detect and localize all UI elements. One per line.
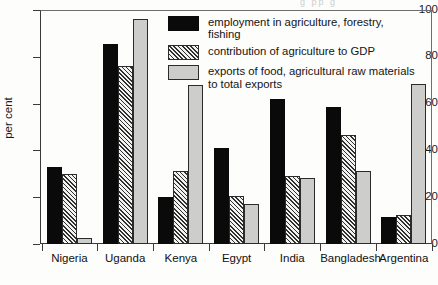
bar-argentina-series-0 [381, 217, 396, 244]
bar-nigeria-series-0 [47, 167, 62, 244]
legend-label-employment: employment in agriculture, forestry, fis… [208, 16, 384, 40]
y-tick-20 [33, 197, 40, 198]
legend-label-exports: exports of food, agricultural raw materi… [208, 65, 415, 89]
legend-entry-employment: employment in agriculture, forestry, fis… [168, 16, 430, 40]
scan-artifact: g pp g [0, 0, 438, 9]
bar-uganda-series-2 [133, 19, 148, 244]
y-axis-title: per cent [2, 88, 14, 148]
bar-bangladesh-series-0 [326, 107, 341, 244]
bar-nigeria-series-2 [77, 238, 92, 244]
x-axis-label-bangladesh: Bangladesh [320, 252, 376, 264]
bar-group-nigeria [46, 10, 93, 244]
y-tick-0 [33, 244, 40, 245]
bar-uganda-series-0 [103, 44, 118, 244]
bar-kenya-series-2 [188, 85, 203, 244]
bar-kenya-series-0 [158, 197, 173, 244]
x-tick-end [432, 244, 433, 251]
chart-legend: employment in agriculture, forestry, fis… [168, 16, 430, 95]
bar-india-series-2 [300, 178, 315, 244]
bar-argentina-series-1 [396, 215, 411, 244]
chart-figure: g pp g 100 80 60 40 20 0 per cent Nigeri… [0, 0, 438, 285]
black-solid-swatch [168, 16, 199, 31]
bar-uganda-series-1 [118, 66, 133, 244]
bar-egypt-series-1 [229, 196, 244, 244]
legend-label-exports-line2: to total exports [208, 78, 415, 90]
bar-argentina-series-2 [411, 84, 426, 244]
x-tick-0 [42, 244, 43, 251]
legend-label-employment-line1: employment in agriculture, forestry, [208, 16, 384, 28]
scan-artifact-text: g pp g [300, 0, 337, 7]
x-tick-5 [320, 244, 321, 251]
bar-nigeria-series-1 [62, 174, 77, 244]
legend-entry-gdp: contribution of agriculture to GDP [168, 45, 430, 60]
bar-group-uganda [102, 10, 149, 244]
bar-bangladesh-series-1 [341, 135, 356, 244]
hatched-swatch [168, 45, 199, 60]
x-axis-label-uganda: Uganda [97, 252, 153, 264]
legend-entry-exports: exports of food, agricultural raw materi… [168, 65, 430, 89]
bar-india-series-0 [270, 99, 285, 244]
bar-bangladesh-series-2 [356, 171, 371, 244]
legend-label-employment-line2: fishing [208, 28, 384, 40]
y-tick-60 [33, 104, 40, 105]
x-tick-4 [264, 244, 265, 251]
x-axis-label-argentina: Argentina [376, 252, 432, 264]
y-tick-100 [33, 10, 40, 11]
x-axis-label-kenya: Kenya [153, 252, 209, 264]
x-axis-label-nigeria: Nigeria [42, 252, 98, 264]
legend-label-gdp: contribution of agriculture to GDP [208, 45, 375, 57]
bar-egypt-series-0 [214, 148, 229, 244]
grey-solid-swatch [168, 65, 199, 80]
x-tick-2 [153, 244, 154, 251]
legend-label-gdp-line1: contribution of agriculture to GDP [208, 45, 375, 57]
y-tick-80 [33, 57, 40, 58]
x-tick-6 [376, 244, 377, 251]
bar-kenya-series-1 [173, 171, 188, 244]
x-tick-1 [97, 244, 98, 251]
x-axis-label-india: India [264, 252, 320, 264]
y-tick-40 [33, 150, 40, 151]
bar-india-series-1 [285, 176, 300, 244]
x-tick-3 [209, 244, 210, 251]
bar-egypt-series-2 [244, 204, 259, 244]
legend-label-exports-line1: exports of food, agricultural raw materi… [208, 65, 415, 77]
x-axis-label-egypt: Egypt [209, 252, 265, 264]
